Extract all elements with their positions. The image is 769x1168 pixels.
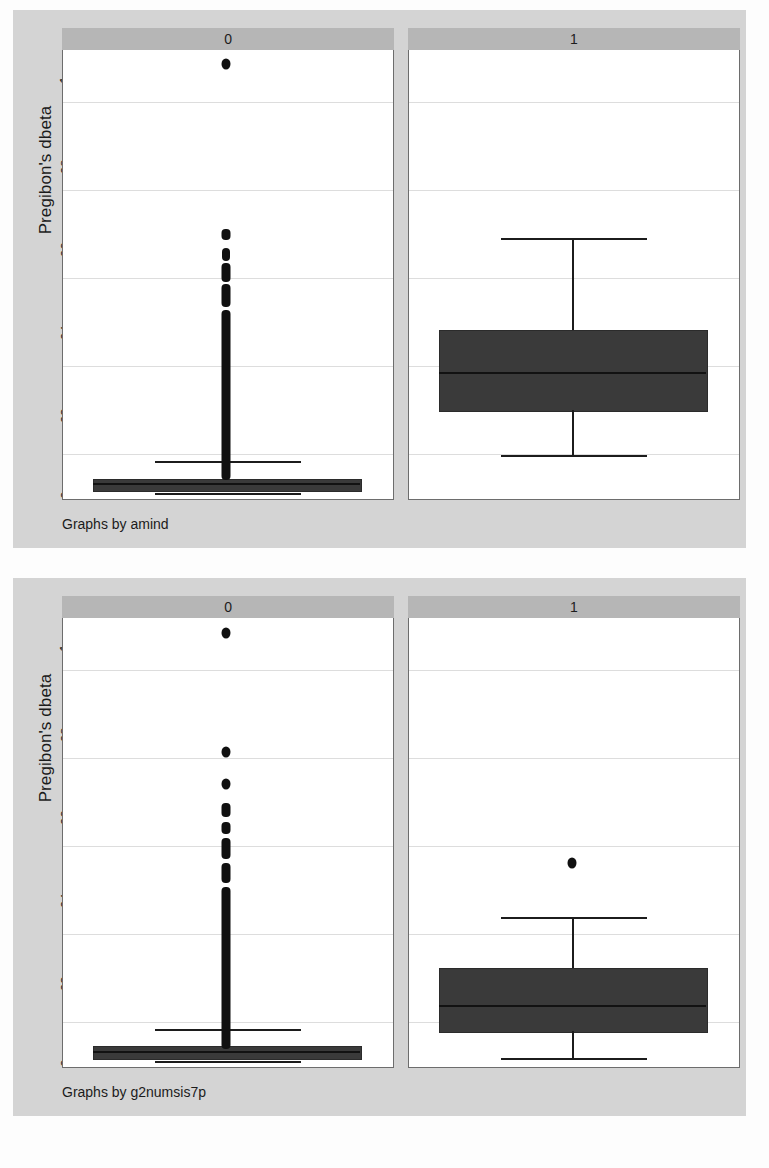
outlier-cluster — [222, 863, 231, 883]
chart-top: Pregibon's dbeta 0 .02 .04 .06 .08 .1 0 — [13, 10, 746, 548]
gridline-0.08 — [409, 758, 739, 759]
outlier-point — [222, 627, 231, 638]
box — [439, 968, 708, 1032]
gridline-0.1 — [409, 102, 739, 103]
median-line — [439, 372, 706, 374]
gridline-0.08 — [63, 190, 393, 191]
outlier-cluster — [222, 263, 231, 282]
whisker-cap-lower — [501, 1058, 646, 1060]
whisker-cap-lower — [155, 1061, 300, 1063]
panel-header-top-1: 1 — [408, 28, 740, 50]
outlier-point — [222, 59, 231, 70]
outlier-cluster — [222, 803, 231, 817]
panel-bottom-0[interactable]: 0 — [62, 596, 394, 1068]
panel-top-0[interactable]: 0 — [62, 28, 394, 500]
outlier-cluster — [222, 887, 231, 1049]
gridline-0.08 — [409, 190, 739, 191]
figure-page: Pregibon's dbeta 0 .02 .04 .06 .08 .1 0 — [0, 0, 769, 1168]
outlier-cluster — [222, 284, 231, 306]
whisker-line-lower — [572, 410, 574, 456]
plot-area-top-1 — [408, 50, 740, 500]
panel-bottom-1[interactable]: 1 — [408, 596, 740, 1068]
outlier-point — [568, 858, 577, 869]
outlier-cluster — [222, 248, 230, 261]
median-line — [93, 483, 360, 485]
whisker-line-upper — [572, 238, 574, 330]
median-line — [93, 1051, 360, 1053]
graph-note-bottom: Graphs by g2numsis7p — [62, 1084, 206, 1100]
outlier-cluster — [222, 229, 231, 241]
panels-top: 0 — [62, 28, 740, 500]
box — [439, 330, 708, 412]
panels-bottom: 0 — [62, 596, 740, 1068]
whisker-line-upper — [572, 917, 574, 969]
outlier-cluster — [222, 822, 231, 835]
whisker-line-lower — [572, 1031, 574, 1058]
whisker-cap-lower — [155, 493, 300, 495]
plot-area-bottom-0 — [62, 618, 394, 1068]
graph-note-top: Graphs by amind — [62, 516, 169, 532]
gridline-0.1 — [409, 670, 739, 671]
gridline-0.1 — [63, 670, 393, 671]
median-line — [439, 1005, 706, 1007]
outlier-point — [222, 778, 231, 789]
panel-top-1[interactable]: 1 — [408, 28, 740, 500]
whisker-cap-lower — [501, 455, 646, 457]
panel-header-bottom-0: 0 — [62, 596, 394, 618]
outlier-cluster — [222, 838, 231, 859]
panel-header-bottom-1: 1 — [408, 596, 740, 618]
plot-area-bottom-1 — [408, 618, 740, 1068]
panel-header-top-0: 0 — [62, 28, 394, 50]
outlier-cluster — [222, 310, 231, 481]
outlier-point — [222, 746, 231, 757]
chart-bottom: Pregibon's dbeta 0 .02 .04 .06 .08 .1 0 — [13, 578, 746, 1116]
gridline-0.1 — [63, 102, 393, 103]
plot-area-top-0 — [62, 50, 394, 500]
gridline-0.06 — [409, 846, 739, 847]
gridline-0.08 — [63, 758, 393, 759]
